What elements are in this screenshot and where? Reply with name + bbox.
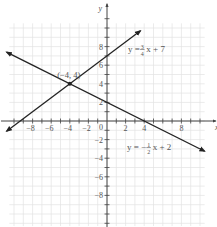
equation-label-1: y = 34x + 7 — [128, 44, 165, 57]
x-tick-label: 2 — [124, 124, 128, 133]
x-tick-label: 4 — [142, 124, 146, 133]
y-tick-label: −6 — [94, 173, 103, 182]
y-tick-label: −2 — [94, 136, 103, 145]
x-tick-label: −6 — [45, 124, 54, 133]
series-line-1 — [7, 31, 141, 131]
y-tick-label: 6 — [99, 61, 103, 70]
y-tick-label: 8 — [99, 43, 103, 52]
equation-prefix: y = — [128, 44, 140, 54]
equation-label-2: y = −12x + 2 — [127, 142, 171, 155]
fraction-numerator: 1 — [147, 142, 150, 148]
equation-prefix: y = − — [127, 142, 146, 152]
chart: −8−6−4−22488642−2−4−6−80yx(−4, 4)y = 34x… — [0, 0, 217, 227]
y-tick-label: 2 — [99, 98, 103, 107]
fraction-denominator: 2 — [147, 149, 150, 155]
lines — [7, 31, 205, 151]
intersection-point — [68, 82, 72, 86]
fraction-denominator: 4 — [141, 51, 144, 57]
equation-suffix: x + 7 — [146, 44, 165, 54]
x-tick-label: −8 — [26, 124, 35, 133]
equation-suffix: x + 2 — [153, 142, 172, 152]
y-axis-label: y — [97, 4, 102, 13]
origin-label: 0 — [99, 123, 103, 132]
x-tick-label: −4 — [64, 124, 73, 133]
x-tick-label: −2 — [82, 124, 91, 133]
x-tick-label: 8 — [179, 124, 183, 133]
fraction-numerator: 3 — [141, 44, 144, 50]
y-tick-label: −8 — [94, 191, 103, 200]
y-tick-label: −4 — [94, 154, 103, 163]
x-axis-label: x — [214, 123, 217, 132]
labels: −8−6−4−22488642−2−4−6−80yx(−4, 4)y = 34x… — [26, 4, 217, 201]
series-line-2 — [7, 52, 205, 151]
y-tick-label: 4 — [99, 80, 103, 89]
intersection-label: (−4, 4) — [57, 70, 80, 80]
